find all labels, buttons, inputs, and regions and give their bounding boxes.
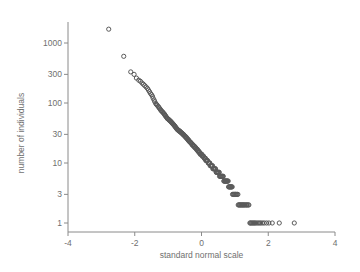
x-axis-title: standard normal scale — [160, 250, 244, 260]
y-tick-label: 100 — [48, 98, 62, 108]
x-tick-label: -4 — [64, 238, 72, 248]
x-tick-label: 0 — [199, 238, 204, 248]
data-point — [277, 221, 281, 225]
y-tick-label: 3 — [57, 189, 62, 199]
x-tick-label: 4 — [333, 238, 338, 248]
x-tick-label: -2 — [131, 238, 139, 248]
y-axis-title: number of individuals — [16, 93, 26, 173]
data-point — [292, 221, 296, 225]
y-tick-label: 1 — [57, 218, 62, 228]
data-series-group — [107, 27, 297, 225]
y-tick-label: 30 — [53, 129, 63, 139]
data-point — [122, 54, 126, 58]
y-tick-label: 10 — [53, 158, 63, 168]
chart-canvas: 1310301003001000-4-2024standard normal s… — [0, 0, 360, 272]
y-tick-label: 300 — [48, 69, 62, 79]
x-tick-label: 2 — [266, 238, 271, 248]
data-point — [107, 27, 111, 31]
qq-plot-figure: 1310301003001000-4-2024standard normal s… — [0, 0, 360, 272]
y-tick-label: 1000 — [43, 38, 62, 48]
